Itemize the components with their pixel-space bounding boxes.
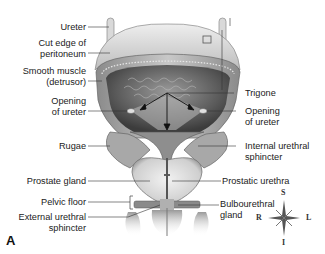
label-opening-of-ureter-right: Openingof ureter	[245, 106, 280, 127]
label-pelvic-floor: Pelvic floor	[41, 197, 86, 208]
label-external-urethral-sphincter: External urethralsphincter	[19, 212, 86, 233]
label-trigone: Trigone	[245, 88, 276, 99]
label-prostatic-urethra: Prostatic urethra	[222, 176, 289, 187]
label-prostate-gland: Prostate gland	[27, 176, 86, 187]
label-ureter: Ureter	[60, 22, 86, 33]
compass-inferior: I	[282, 238, 285, 247]
label-cut-edge-peritoneum: Cut edge ofperitoneum	[38, 38, 86, 59]
label-opening-of-ureter-left: Openingof ureter	[51, 96, 86, 117]
label-rugae: Rugae	[59, 141, 86, 152]
label-internal-urethral-sphincter: Internal urethralsphincter	[245, 141, 309, 162]
compass-superior: S	[281, 188, 285, 197]
compass-rose-icon	[262, 196, 306, 240]
panel-letter: A	[6, 233, 15, 248]
label-smooth-muscle: Smooth muscle(detrusor)	[23, 66, 86, 87]
orientation-compass: S I R L	[262, 196, 306, 240]
compass-left: L	[306, 213, 311, 222]
compass-right: R	[256, 213, 262, 222]
